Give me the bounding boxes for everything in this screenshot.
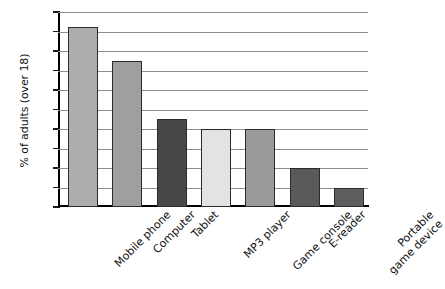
- x-axis-label: MP3 player: [242, 209, 294, 261]
- bar: [157, 119, 187, 207]
- x-axis-label: Game console: [291, 209, 355, 273]
- bar: [334, 188, 364, 208]
- x-axis-label-line: MP3 player: [242, 209, 294, 261]
- plot-area: 1009080706050403020100: [58, 12, 368, 207]
- x-axis-category-labels: Mobile phoneComputerTabletMP3 playerGame…: [58, 209, 378, 289]
- bars-group: [58, 12, 368, 207]
- bar: [112, 61, 142, 207]
- bar: [201, 129, 231, 207]
- bar: [290, 168, 320, 207]
- x-axis-label: Portablegame device: [378, 209, 445, 277]
- bar: [68, 27, 98, 207]
- x-axis-label-line: Game console: [291, 209, 355, 273]
- y-axis-title: % of adults (over 18): [18, 26, 31, 196]
- bar: [245, 129, 275, 207]
